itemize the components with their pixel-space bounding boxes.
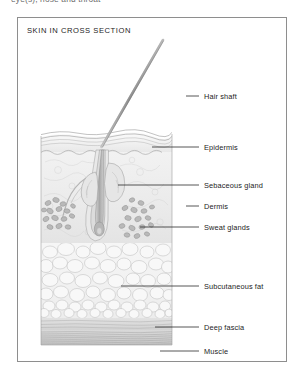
label-subcutaneous-fat: Subcutaneous fat xyxy=(204,283,263,290)
label-deep-fascia: Deep fascia xyxy=(204,324,244,331)
label-muscle: Muscle xyxy=(204,348,228,355)
running-header: eye(s), nose and throat xyxy=(11,0,211,4)
label-dermis: Dermis xyxy=(204,203,228,210)
label-sweat-glands: Sweat glands xyxy=(204,224,250,231)
label-sebaceous-gland: Sebaceous gland xyxy=(204,182,263,189)
label-hair-shaft: Hair shaft xyxy=(204,93,237,100)
figure-title: SKIN IN CROSS SECTION xyxy=(27,26,131,35)
label-epidermis: Epidermis xyxy=(204,144,238,151)
